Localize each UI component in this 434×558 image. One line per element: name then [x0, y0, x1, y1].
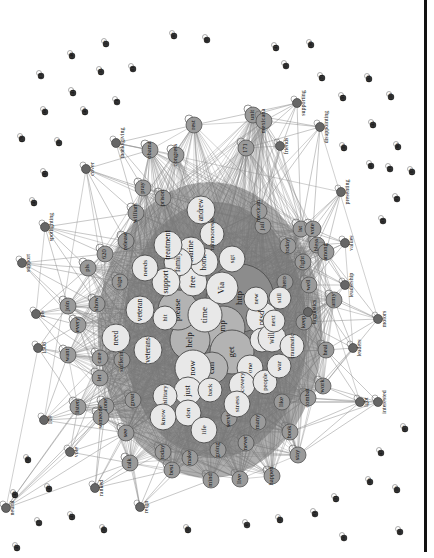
- node-label: 107: [402, 425, 407, 433]
- network-figure: sufferingcareletgreatalonesomeoneseetoda…: [0, 0, 434, 558]
- node-label: 176: [19, 135, 24, 143]
- node-label: 180: [395, 143, 400, 151]
- node-label: 47: [378, 450, 383, 456]
- node-label: one: [246, 363, 254, 373]
- node-label: next: [269, 315, 276, 326]
- node-label: hit: [161, 314, 168, 321]
- node-label: disappointing: [323, 111, 329, 144]
- node-label: many: [253, 414, 260, 429]
- node-label: let: [95, 375, 102, 382]
- node-label: 130: [25, 456, 30, 464]
- node-label: best: [167, 465, 174, 476]
- node-label: lgbt: [363, 397, 369, 407]
- node-label: listen: [73, 399, 80, 414]
- node-label: mexican: [254, 199, 261, 222]
- node-label: hero: [280, 276, 287, 288]
- node-label: make: [185, 451, 192, 465]
- node-label: need: [111, 331, 120, 346]
- node-label: 81: [394, 196, 399, 202]
- node-label: now: [187, 360, 197, 376]
- node-label: new: [252, 293, 259, 304]
- node-label: spotlighting: [48, 213, 54, 242]
- node-label: veteran: [135, 299, 144, 322]
- node-label: keep: [299, 316, 306, 328]
- node-label: military: [161, 385, 168, 407]
- node-label: talk: [125, 457, 132, 467]
- node-label: work: [318, 379, 325, 393]
- node-label: join: [63, 300, 70, 312]
- node-label: vote: [73, 447, 79, 458]
- right-border-line: [424, 0, 427, 552]
- node-label: care: [95, 352, 102, 363]
- node-label: 87: [204, 37, 209, 43]
- node-label: like: [277, 397, 284, 407]
- node-label: never: [241, 435, 248, 450]
- node-label: book: [285, 425, 292, 439]
- node-label: presenting: [344, 180, 350, 205]
- node-label: 66: [397, 529, 402, 535]
- node-label: traumatic: [288, 333, 295, 358]
- node-label: free: [188, 275, 197, 288]
- node-label: someone: [96, 405, 103, 428]
- node-label: unit: [248, 110, 255, 120]
- node-label: prison: [158, 189, 165, 206]
- node-label: 1508: [41, 342, 47, 354]
- node-label: 71: [114, 99, 119, 105]
- node-label: 81: [312, 511, 317, 517]
- node-label: 166: [42, 108, 47, 116]
- node-label: friends: [283, 137, 289, 154]
- node-label: support: [161, 270, 170, 294]
- node-label: 118: [185, 526, 190, 534]
- node-label: today: [283, 238, 290, 253]
- node-label: vote: [308, 223, 315, 234]
- node-label: 17: [36, 520, 41, 526]
- node-label: tahmooressi: [208, 218, 215, 250]
- node-label: mind: [206, 473, 213, 487]
- node-label: 142: [46, 485, 51, 493]
- node-label: jail: [258, 222, 265, 231]
- node-label: rest: [189, 120, 196, 130]
- node-label: needs: [141, 260, 149, 276]
- node-label: time: [199, 307, 209, 323]
- node-label: 147: [14, 544, 19, 552]
- node-label: 182: [409, 168, 414, 176]
- node-label: 66: [341, 535, 346, 541]
- node-label: sign: [115, 276, 122, 288]
- node-label: 48: [368, 163, 373, 169]
- node-label: reign: [143, 501, 149, 513]
- node-label: people: [261, 373, 268, 391]
- node-label: life: [200, 425, 208, 435]
- node-label: see: [121, 429, 128, 437]
- node-label: today: [158, 444, 165, 459]
- node-label: stay: [293, 449, 300, 460]
- node-label: treatment: [163, 230, 172, 260]
- node-label: veterans: [143, 337, 152, 363]
- node-label: 157: [103, 40, 108, 48]
- node-label: fight: [298, 256, 305, 268]
- node-label: 108: [367, 478, 372, 486]
- node-label: 91: [380, 218, 385, 224]
- node-label: 191: [340, 94, 345, 102]
- node-label: 147: [31, 199, 36, 207]
- node-label: don: [184, 407, 192, 418]
- node-label: 146: [69, 52, 74, 60]
- node-label: help: [184, 332, 194, 348]
- node-label: release: [121, 232, 128, 250]
- node-label: cover: [89, 162, 95, 175]
- node-label: leadership: [348, 273, 354, 298]
- node-label: get: [226, 346, 236, 357]
- node-label: william: [131, 203, 138, 223]
- node-label: 119: [388, 93, 393, 101]
- node-label: supporting: [300, 90, 306, 116]
- node-label: live: [235, 474, 242, 484]
- node-label: 131: [333, 495, 338, 503]
- node-label: interested: [381, 390, 387, 413]
- node-label: linguistics: [311, 299, 317, 324]
- node-label: 145: [370, 121, 375, 129]
- node-label: 85: [283, 63, 288, 69]
- node-label: 107: [171, 32, 176, 40]
- node-label: 139: [56, 139, 61, 147]
- node-label: 118: [394, 486, 399, 494]
- node-label: show: [92, 297, 99, 311]
- node-label: combat: [303, 388, 310, 407]
